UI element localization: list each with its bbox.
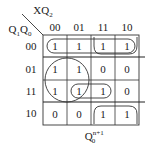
kmap-cell: 1 [43, 59, 67, 79]
kmap-cell: 1 [43, 36, 67, 56]
col-header: 11 [91, 22, 115, 33]
kmap-cell: 1 [115, 104, 139, 124]
kmap-cell: 1 [91, 36, 115, 56]
kmap-cell: 1 [67, 59, 91, 79]
row-header: 01 [22, 64, 40, 75]
left-variable-b-sub: 0 [28, 30, 32, 38]
left-variable-a: Q [9, 23, 17, 35]
row-header: 11 [22, 86, 40, 97]
caption-sub: 0 [92, 137, 96, 145]
col-header: 01 [67, 22, 91, 33]
top-variable-sub: 2 [49, 11, 53, 19]
col-header: 10 [115, 22, 139, 33]
kmap-cell: 0 [67, 104, 91, 124]
kmap-cell: 1 [67, 81, 91, 101]
kmap-cell: 0 [43, 104, 67, 124]
row-header: 10 [22, 108, 40, 119]
kmap-cell: 1 [91, 81, 115, 101]
kmap-cell: 0 [115, 81, 139, 101]
kmap-cell: 0 [115, 59, 139, 79]
left-variable-label: Q1Q0 [6, 24, 34, 35]
kmap-cell: 1 [43, 81, 67, 101]
col-header: 00 [43, 22, 67, 33]
left-variable-b: Q [20, 23, 28, 35]
top-variable-label: XQ2 [28, 5, 58, 16]
kmap-cell: 1 [91, 104, 115, 124]
kmap-cell: 1 [67, 36, 91, 56]
top-variable-text: XQ [33, 4, 49, 16]
row-header: 00 [22, 41, 40, 52]
kmap-caption: Qn+10 [75, 131, 105, 142]
kmap-cell: 0 [91, 59, 115, 79]
kmap-cell: 1 [115, 36, 139, 56]
